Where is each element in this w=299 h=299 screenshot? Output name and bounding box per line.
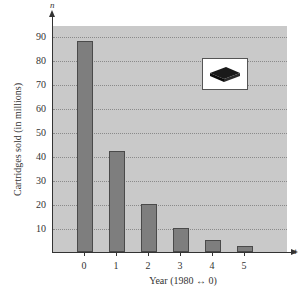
bar-4	[205, 240, 221, 252]
bar-2	[141, 204, 157, 252]
y-axis	[52, 14, 53, 253]
y-tick-label: 50	[22, 128, 46, 138]
x-tick-label: 3	[172, 261, 188, 271]
x-axis-variable: t	[294, 246, 297, 256]
game-cartridge-icon	[208, 65, 242, 83]
gridline-90	[53, 37, 287, 38]
x-tick-label: 2	[140, 261, 156, 271]
x-tick-label: 5	[236, 261, 252, 271]
y-axis-variable: n	[50, 0, 55, 10]
x-tick-label: 1	[108, 261, 124, 271]
inset-image-frame	[202, 58, 248, 90]
y-tick-label: 70	[22, 80, 46, 90]
x-tick-label: 0	[76, 261, 92, 271]
x-axis	[52, 252, 294, 253]
y-tick-label: 90	[22, 32, 46, 42]
x-tick-label: 4	[204, 261, 220, 271]
x-axis-title: Year (1980 ↔ 0)	[118, 275, 248, 286]
y-tick-label: 20	[22, 200, 46, 210]
y-tick-label: 10	[22, 224, 46, 234]
y-tick-label: 60	[22, 104, 46, 114]
x-tick-mark	[84, 252, 85, 256]
bar-3	[173, 228, 189, 252]
x-tick-mark	[116, 252, 117, 256]
x-tick-mark	[180, 252, 181, 256]
x-tick-mark	[244, 252, 245, 256]
y-tick-label: 30	[22, 176, 46, 186]
y-axis-title: Cartridges sold (in millions)	[12, 75, 23, 205]
y-axis-arrow-icon	[49, 10, 55, 17]
x-tick-mark	[212, 252, 213, 256]
y-tick-label: 80	[22, 56, 46, 66]
bar-0	[77, 41, 93, 252]
y-tick-label: 40	[22, 152, 46, 162]
bar-1	[109, 151, 125, 252]
x-tick-mark	[148, 252, 149, 256]
